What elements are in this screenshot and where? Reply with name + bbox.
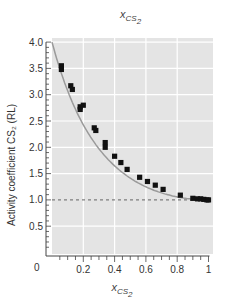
x-axis-label: xCS2 — [111, 281, 132, 298]
data-point — [206, 197, 211, 202]
x-label-sub-text: CS — [117, 287, 128, 296]
y-tick-label: 0.5 — [29, 221, 43, 232]
data-point — [178, 193, 183, 198]
x-tick-label: 1 — [206, 264, 212, 275]
data-point — [93, 128, 98, 133]
data-point — [103, 145, 108, 150]
x-tick-label: 0.6 — [139, 264, 153, 275]
data-point — [59, 67, 64, 72]
data-point — [81, 103, 86, 108]
data-point — [112, 154, 117, 159]
x-tick-label: 0.2 — [76, 264, 90, 275]
origin-label: 0 — [34, 262, 40, 273]
y-tick-label: 3.5 — [29, 63, 43, 74]
y-tick-label: 1.0 — [29, 194, 43, 205]
data-point — [153, 183, 158, 188]
plot-area — [52, 38, 213, 254]
y-tick-label: 2.5 — [29, 116, 43, 127]
data-point — [125, 167, 130, 172]
x-label-subsub: 2 — [128, 290, 132, 298]
data-point — [145, 179, 150, 184]
x-label-sub: CS2 — [117, 287, 133, 296]
data-point — [70, 87, 75, 92]
data-point — [137, 175, 142, 180]
data-point — [190, 196, 195, 201]
data-point — [103, 140, 108, 145]
y-tick-label: 2.0 — [29, 142, 43, 153]
x-tick-label: 0.8 — [170, 264, 184, 275]
y-tick-label: 1.5 — [29, 168, 43, 179]
scatter-chart: 0.51.01.52.02.53.03.54.00.20.40.60.81 — [0, 0, 227, 298]
y-tick-label: 3.0 — [29, 89, 43, 100]
y-tick-label: 4.0 — [29, 37, 43, 48]
data-point — [161, 187, 166, 192]
x-tick-label: 0.4 — [108, 264, 122, 275]
data-point — [118, 160, 123, 165]
